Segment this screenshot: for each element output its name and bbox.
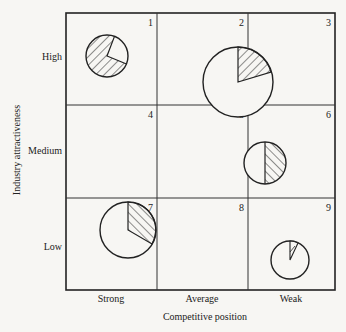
- x-tick-weak: Weak: [280, 293, 303, 304]
- bubble-cell-7: [100, 202, 156, 258]
- bubble-cell-9: [271, 241, 309, 279]
- bubble-cell-2: [203, 47, 273, 117]
- x-tick-strong: Strong: [98, 293, 125, 304]
- bubble-cell-6: [244, 142, 286, 184]
- y-axis-title: Industry attractiveness: [11, 105, 22, 195]
- y-tick-high: High: [42, 51, 62, 62]
- cell-number-1: 1: [148, 17, 153, 28]
- cell-number-2: 2: [239, 17, 244, 28]
- y-tick-low: Low: [44, 241, 63, 252]
- bubble-cell-1: [86, 35, 128, 77]
- cell-number-4: 4: [148, 109, 153, 120]
- x-axis-title: Competitive position: [163, 311, 247, 322]
- x-tick-average: Average: [185, 293, 219, 304]
- cell-number-3: 3: [326, 17, 331, 28]
- cell-number-6: 6: [326, 109, 331, 120]
- y-tick-medium: Medium: [28, 145, 62, 156]
- ge-mckinsey-matrix: 1 2 3 4 5 6 7 8 9 High: [0, 0, 346, 332]
- cell-number-8: 8: [239, 202, 244, 213]
- cell-number-9: 9: [326, 202, 331, 213]
